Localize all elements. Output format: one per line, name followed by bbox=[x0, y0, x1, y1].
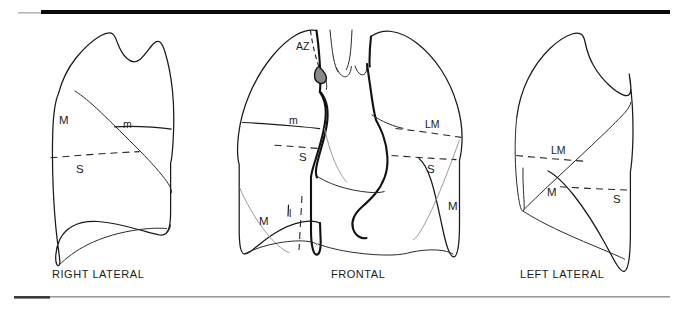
right-lateral-lung-outline bbox=[52, 33, 173, 266]
label-left-lateral-major: M bbox=[547, 186, 557, 198]
bottom-rule-thin bbox=[14, 296, 670, 298]
label-frontal-superior-left: S bbox=[427, 163, 435, 175]
bottom-rule-thick bbox=[14, 296, 50, 299]
label-frontal-superior-right: S bbox=[299, 151, 307, 163]
frontal-left-lung-medial-border bbox=[370, 37, 372, 67]
label-frontal-major-right: M bbox=[259, 215, 269, 227]
frontal-left-superior-line bbox=[392, 156, 457, 160]
label-frontal-lingula-left: LM bbox=[425, 118, 440, 130]
frontal-aortic-knob-right bbox=[355, 66, 367, 75]
frontal-azygos-blob bbox=[314, 67, 326, 84]
label-frontal-minor-right: m bbox=[289, 114, 298, 126]
label-frontal-lower-right: l bbox=[289, 207, 291, 219]
right-lateral-superior-line bbox=[51, 152, 140, 158]
frontal-right-lung-outline bbox=[238, 30, 320, 254]
frontal-right-superior-line bbox=[275, 145, 321, 149]
label-right-lateral-major: M bbox=[59, 114, 69, 126]
right-lateral-diaphragm bbox=[59, 228, 167, 265]
label-frontal-azygos: AZ bbox=[296, 40, 309, 52]
frontal-aortic-knob-left bbox=[337, 67, 352, 77]
frontal-trachea-right-wall bbox=[346, 30, 352, 70]
left-lateral-superior-line bbox=[560, 187, 628, 190]
right-lateral-major-fissure bbox=[75, 91, 172, 193]
caption-left-lateral: LEFT LATERAL bbox=[520, 268, 604, 280]
caption-right-lateral: RIGHT LATERAL bbox=[52, 268, 144, 280]
panel-right-lateral bbox=[51, 33, 174, 266]
frontal-heart-lower-arc bbox=[318, 177, 385, 193]
label-right-lateral-minor: m bbox=[123, 118, 132, 130]
label-left-lateral-lingula: LM bbox=[551, 144, 566, 156]
frontal-heart-base bbox=[318, 244, 410, 255]
left-lateral-lung-outline bbox=[517, 33, 633, 271]
figure-canvas bbox=[0, 0, 678, 310]
left-lateral-lingula-line bbox=[516, 156, 584, 162]
frontal-heart-left-border bbox=[352, 64, 387, 238]
label-left-lateral-superior: S bbox=[613, 193, 621, 205]
panel-frontal bbox=[238, 30, 463, 257]
frontal-left-major-fissure bbox=[414, 140, 460, 240]
label-frontal-major-left: M bbox=[448, 200, 458, 212]
label-right-lateral-superior: S bbox=[76, 163, 84, 175]
caption-frontal: FRONTAL bbox=[331, 268, 385, 280]
lung-fissure-figure: M m S RIGHT LATERAL AZ m S M l LM S M FR… bbox=[0, 0, 678, 310]
frontal-right-minor-fissure bbox=[243, 123, 320, 129]
frontal-trachea-left-wall bbox=[330, 30, 338, 72]
left-lateral-posterior-tail bbox=[515, 117, 524, 211]
frontal-descending-aorta bbox=[325, 128, 347, 182]
frontal-left-diaphragm bbox=[410, 250, 453, 254]
panel-left-lateral bbox=[515, 33, 633, 271]
top-rule-stub bbox=[18, 12, 44, 14]
left-lateral-diaphragm bbox=[523, 211, 625, 259]
top-rule bbox=[41, 10, 670, 14]
